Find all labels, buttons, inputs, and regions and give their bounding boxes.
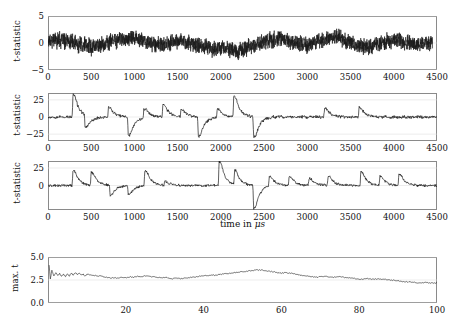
- y-tick-label: 25: [22, 95, 44, 105]
- panel-2-trace: [48, 93, 437, 141]
- x-tick-label: 4000: [383, 143, 405, 153]
- x-tick-label: 1000: [124, 143, 146, 153]
- panel-3-trace: [48, 161, 437, 210]
- panel-3-plot-area: [48, 161, 437, 210]
- multi-panel-figure: t-statistic −505 05001000150020002500300…: [0, 0, 466, 324]
- x-tick-label: 2500: [253, 143, 275, 153]
- y-tick-label: 0: [22, 181, 44, 191]
- x-tick-label: 20: [120, 305, 131, 315]
- x-tick-label: 3500: [340, 72, 362, 82]
- x-tick-label: 40: [198, 305, 209, 315]
- x-tick-label: 500: [83, 143, 99, 153]
- panel-2-plot-area: [48, 93, 437, 141]
- panel-2-y-axis-label: t-statistic: [12, 80, 22, 150]
- y-tick-label: −5: [22, 65, 44, 75]
- panel-1-plot-area: [48, 16, 437, 70]
- panel-4-trace: [48, 257, 437, 303]
- x-tick-label: 1500: [167, 143, 189, 153]
- y-tick-label: 5.0: [22, 252, 44, 262]
- x-tick-label: 2000: [210, 143, 232, 153]
- x-tick-label: 4500: [426, 72, 448, 82]
- x-tick-label: 1500: [167, 72, 189, 82]
- x-tick-label: 4500: [426, 143, 448, 153]
- panel-3-y-axis-label: t-statistic: [12, 148, 22, 218]
- y-tick-label: 5: [22, 11, 44, 21]
- x-tick-label: 2000: [210, 72, 232, 82]
- x-tick-label: 3500: [340, 143, 362, 153]
- x-tick-label: 3000: [297, 143, 319, 153]
- panel-3-x-axis-label: time in μs: [48, 219, 437, 229]
- panel-4-y-axis-label: max. t: [10, 249, 20, 307]
- x-tick-label: 100: [429, 305, 445, 315]
- x-tick-label: 4000: [383, 72, 405, 82]
- panel-1-trace: [48, 16, 437, 70]
- panel-4-plot-area: [48, 257, 437, 303]
- x-tick-label: 3000: [297, 72, 319, 82]
- panel-1-y-axis-label: t-statistic: [12, 6, 22, 76]
- x-tick-label: 2500: [253, 72, 275, 82]
- x-tick-label: 500: [83, 72, 99, 82]
- x-tick-label: 0: [45, 143, 50, 153]
- x-tick-label: 80: [354, 305, 365, 315]
- y-tick-label: 2.5: [22, 275, 44, 285]
- y-tick-label: 0: [22, 112, 44, 122]
- y-tick-label: −25: [22, 129, 44, 139]
- x-axis-unit: μs: [255, 219, 265, 229]
- x-tick-label: 60: [276, 305, 287, 315]
- y-tick-label: 0: [22, 38, 44, 48]
- y-tick-label: 0.0: [22, 298, 44, 308]
- x-tick-label: 1000: [124, 72, 146, 82]
- x-tick-label: 0: [45, 72, 50, 82]
- y-tick-label: 25: [22, 163, 44, 173]
